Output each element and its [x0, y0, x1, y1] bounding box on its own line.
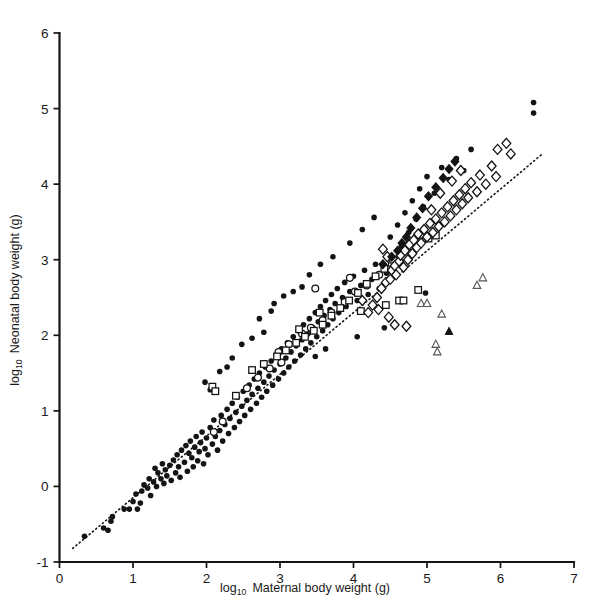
point-filled-circle — [232, 425, 238, 431]
point-filled-circle — [205, 452, 211, 458]
point-filled-circle — [239, 342, 245, 348]
point-open-square — [233, 392, 240, 399]
point-open-square — [358, 308, 365, 315]
point-filled-circle — [190, 464, 196, 470]
point-filled-circle — [248, 407, 254, 413]
point-open-square — [328, 312, 335, 319]
point-filled-circle — [220, 438, 226, 444]
point-filled-circle — [360, 227, 366, 233]
point-filled-circle — [195, 458, 201, 464]
scatter-plot-figure: 01234567-10123456 log10 Maternal body we… — [0, 0, 602, 612]
point-filled-circle — [188, 438, 194, 444]
point-filled-circle — [276, 376, 282, 382]
point-filled-circle — [330, 254, 336, 260]
point-filled-circle — [439, 165, 445, 171]
point-open-diamond — [476, 170, 485, 180]
point-filled-circle — [215, 447, 221, 453]
point-filled-circle — [224, 407, 230, 413]
point-open-square — [319, 321, 326, 328]
point-filled-circle — [224, 364, 230, 370]
point-open-square — [346, 297, 353, 304]
point-filled-circle — [424, 174, 430, 180]
point-open-diamond — [456, 166, 465, 176]
point-filled-circle — [244, 397, 250, 403]
point-filled-circle — [227, 416, 233, 422]
point-filled-circle — [312, 354, 318, 360]
point-filled-circle — [139, 488, 145, 494]
point-filled-circle — [202, 446, 208, 452]
point-open-square — [261, 361, 268, 368]
point-filled-circle — [202, 379, 208, 385]
point-filled-circle — [174, 452, 180, 458]
point-filled-circle — [249, 336, 255, 342]
y-tick-label: 6 — [41, 26, 49, 41]
point-filled-circle — [249, 391, 255, 397]
point-filled-circle — [259, 394, 265, 400]
point-filled-circle — [292, 358, 298, 364]
plot-canvas: 01234567-10123456 log10 Maternal body we… — [0, 0, 602, 612]
point-filled-circle — [242, 413, 248, 419]
point-filled-circle — [268, 308, 274, 314]
point-open-square — [316, 309, 323, 316]
point-filled-circle — [239, 404, 245, 410]
point-open-triangle — [432, 340, 440, 347]
point-open-square — [355, 290, 362, 297]
x-tick-label: 6 — [497, 571, 505, 586]
point-open-square — [363, 281, 370, 288]
series-filled-circle — [82, 100, 537, 539]
point-filled-circle — [167, 462, 173, 468]
point-filled-circle — [168, 478, 174, 484]
point-open-square — [296, 326, 303, 333]
point-filled-circle — [237, 419, 243, 425]
point-filled-circle — [255, 385, 261, 391]
point-filled-diamond — [425, 192, 433, 201]
axes-group — [54, 33, 575, 568]
point-filled-circle — [229, 355, 235, 361]
x-tick-label: 0 — [56, 571, 64, 586]
point-open-diamond — [493, 144, 502, 154]
point-filled-circle — [173, 470, 179, 476]
point-filled-circle — [261, 329, 267, 335]
point-filled-circle — [161, 481, 167, 487]
point-filled-circle — [323, 346, 329, 352]
point-filled-circle — [531, 110, 537, 116]
y-tick-label: 4 — [41, 177, 49, 192]
point-filled-circle — [183, 443, 189, 449]
point-filled-triangle — [445, 327, 453, 334]
tick-labels-group: 01234567-10123456 — [36, 26, 577, 586]
y-axis-title: log10 Neonatal body weight (g) — [8, 214, 24, 385]
point-filled-circle — [329, 292, 335, 298]
point-filled-circle — [347, 240, 353, 246]
point-open-circle — [210, 429, 217, 436]
point-open-square — [283, 347, 290, 354]
point-open-square — [400, 297, 407, 304]
point-filled-circle — [155, 470, 161, 476]
point-open-diamond — [427, 205, 436, 215]
point-open-circle — [255, 374, 262, 381]
point-filled-circle — [261, 379, 267, 385]
point-filled-circle — [323, 298, 329, 304]
point-filled-circle — [308, 340, 314, 346]
point-filled-circle — [410, 198, 416, 204]
point-filled-circle — [201, 461, 207, 467]
point-filled-circle — [171, 457, 177, 463]
point-filled-circle — [281, 293, 287, 299]
point-filled-circle — [299, 284, 305, 290]
point-filled-circle — [210, 441, 216, 447]
point-filled-circle — [307, 316, 313, 322]
point-filled-circle — [402, 210, 408, 216]
point-filled-circle — [130, 499, 136, 505]
point-filled-circle — [185, 469, 191, 475]
point-filled-circle — [318, 261, 324, 267]
point-filled-circle — [417, 186, 423, 192]
point-filled-circle — [177, 475, 183, 481]
point-filled-circle — [217, 369, 223, 375]
point-filled-circle — [362, 267, 368, 273]
point-filled-circle — [257, 316, 263, 322]
point-filled-circle — [199, 429, 205, 435]
point-filled-circle — [254, 401, 260, 407]
point-filled-circle — [163, 467, 169, 473]
point-filled-circle — [271, 301, 277, 307]
point-open-triangle — [438, 310, 446, 317]
y-tick-label: 3 — [41, 253, 49, 268]
